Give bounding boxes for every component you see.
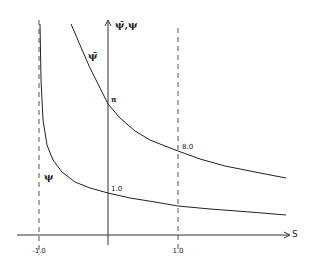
curve-psi [40, 24, 286, 215]
diagram: ψ̄,ψ S ψ̄ ψ π 8.0 1.0 -1.0 1.0 [0, 0, 312, 273]
curve-upper-label: ψ̄ [88, 51, 97, 61]
upper-value-at-one: 8.0 [182, 144, 193, 151]
tick-label-pos-one: 1.0 [172, 248, 183, 255]
upper-value-at-zero: π [111, 97, 117, 104]
lower-value-at-zero: 1.0 [111, 186, 122, 193]
y-axis-label: ψ̄,ψ [115, 20, 137, 30]
curve-lower-label: ψ [44, 172, 53, 182]
diagram-canvas [0, 0, 312, 273]
x-axis-label: S [292, 230, 298, 239]
tick-label-neg-one: -1.0 [32, 248, 46, 255]
